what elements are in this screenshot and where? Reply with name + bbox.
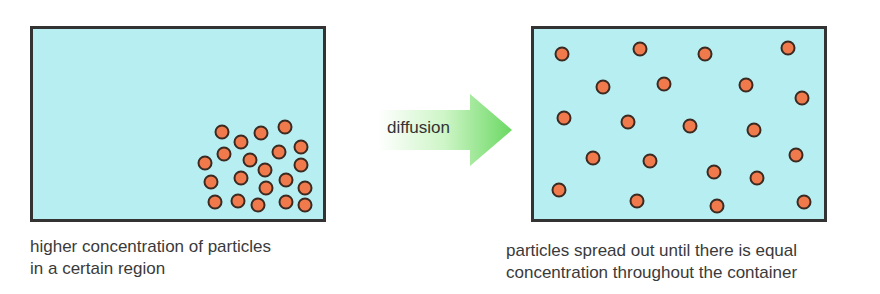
particle (215, 125, 230, 140)
particle (259, 181, 274, 196)
particle (781, 41, 796, 56)
particle (278, 120, 293, 135)
particle (657, 77, 672, 92)
particle (621, 115, 636, 130)
left-caption-line2: in a certain region (30, 258, 271, 280)
particle (234, 135, 249, 150)
particle (795, 91, 810, 106)
particle (596, 80, 611, 95)
particle (298, 198, 313, 213)
particle (557, 111, 572, 126)
right-caption-line2: concentration throughout the container (506, 262, 797, 284)
particle (643, 154, 658, 169)
particle (630, 194, 645, 209)
particle (683, 119, 698, 134)
right-caption-line1: particles spread out until there is equa… (506, 240, 797, 262)
particle (789, 148, 804, 163)
particle (698, 47, 713, 62)
particle (243, 153, 258, 168)
particle (204, 175, 219, 190)
particle (707, 165, 722, 180)
particle (586, 151, 601, 166)
particle (279, 173, 294, 188)
left-caption-line1: higher concentration of particles (30, 236, 271, 258)
particle (279, 195, 294, 210)
particle (739, 78, 754, 93)
particle (258, 163, 273, 178)
particle (234, 171, 249, 186)
particle (217, 147, 232, 162)
particle (298, 181, 313, 196)
arrow-label: diffusion (387, 118, 450, 138)
particle (254, 126, 269, 141)
particle (633, 42, 648, 57)
particle (750, 171, 765, 186)
particle (555, 47, 570, 62)
particle (272, 145, 287, 160)
right-caption: particles spread out until there is equa… (506, 240, 797, 284)
particle (552, 183, 567, 198)
particle (294, 140, 309, 155)
left-caption: higher concentration of particles in a c… (30, 236, 271, 280)
right-container (531, 26, 827, 222)
particle (231, 194, 246, 209)
particle (198, 156, 213, 171)
particle (294, 158, 309, 173)
particle (710, 199, 725, 214)
particle (747, 123, 762, 138)
particle (797, 195, 812, 210)
particle (251, 198, 266, 213)
particle (208, 195, 223, 210)
